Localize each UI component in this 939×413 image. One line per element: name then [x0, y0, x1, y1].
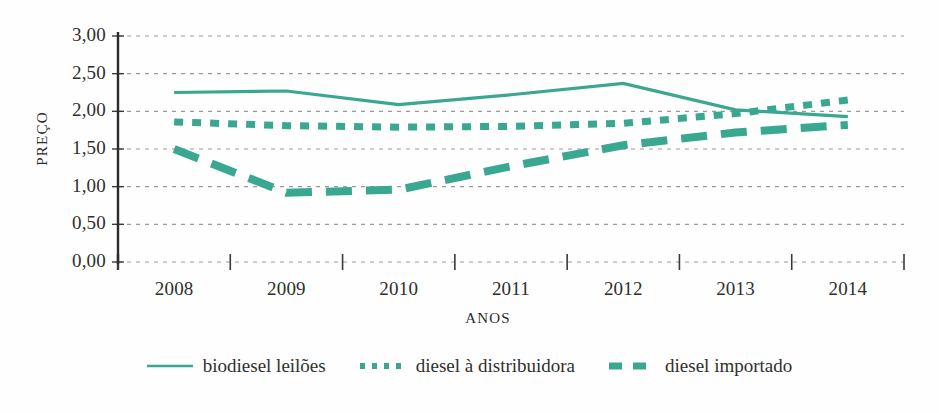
x-axis-tick-label: 2013 [679, 278, 791, 300]
legend-item-2: diesel à distribuidora [360, 355, 575, 377]
x-axis-tick-label: 2009 [230, 278, 342, 300]
y-axis-tick-label: 0,50 [36, 212, 106, 234]
legend-swatch-dashed [609, 359, 655, 373]
legend-label: diesel à distribuidora [416, 355, 575, 377]
legend-label: biodiesel leilões [203, 355, 326, 377]
x-axis-tick-label: 2014 [792, 278, 904, 300]
legend-item-3: diesel importado [609, 355, 792, 377]
legend-swatch-solid [147, 359, 193, 373]
data-series-group [174, 83, 848, 192]
x-axis-tick-label: 2010 [343, 278, 455, 300]
gridlines-group [118, 36, 904, 262]
series-line-1 [174, 83, 848, 116]
series-line-3 [174, 125, 848, 193]
series-line-2 [174, 100, 848, 127]
y-axis-tick-label: 3,00 [36, 24, 106, 46]
x-axis-tick-label: 2012 [567, 278, 679, 300]
line-chart-plot [0, 0, 939, 413]
legend-item-1: biodiesel leilões [147, 355, 326, 377]
legend-label: diesel importado [665, 355, 792, 377]
x-axis-tick-label: 2008 [118, 278, 230, 300]
chart-figure: 0,000,501,001,502,002,503,00 20082009201… [0, 0, 939, 413]
y-axis-tick-label: 0,00 [36, 250, 106, 272]
y-axis-title: PREÇO [34, 79, 51, 199]
legend-swatch-dotted [360, 359, 406, 373]
x-axis-title: ANOS [418, 310, 558, 327]
x-axis-tick-label: 2011 [455, 278, 567, 300]
chart-legend: biodiesel leilõesdiesel à distribuidorad… [0, 355, 939, 377]
